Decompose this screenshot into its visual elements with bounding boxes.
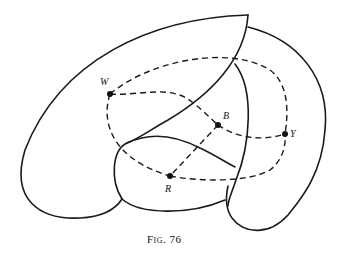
label-B: B — [223, 110, 229, 121]
point-R — [167, 173, 173, 179]
label-Y: Y — [290, 128, 297, 139]
figure-caption: Fig. 76 — [147, 233, 182, 245]
left-region-boundary — [21, 15, 248, 218]
bottom-bulb-lower-edge — [122, 199, 225, 211]
edge-W-R — [107, 94, 170, 176]
bottom-bulb-boundary — [114, 136, 235, 199]
point-W — [107, 91, 113, 97]
edge-B-Y — [218, 125, 285, 138]
map-coloring-figure: W B Y R Fig. 76 — [0, 0, 337, 258]
edge-W-Y-upper — [110, 58, 287, 134]
label-R: R — [164, 183, 171, 194]
point-Y — [282, 131, 288, 137]
edge-B-R — [170, 125, 218, 176]
label-W: W — [100, 76, 110, 87]
point-B — [215, 122, 221, 128]
right-crescent-outer-boundary — [227, 27, 326, 230]
